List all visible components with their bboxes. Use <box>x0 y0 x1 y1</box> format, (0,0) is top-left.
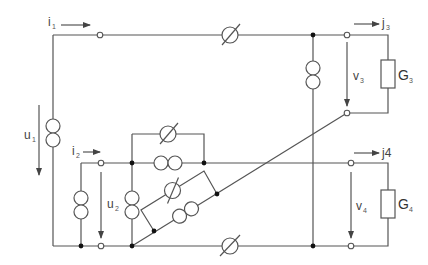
svg-text:G: G <box>398 196 409 212</box>
svg-text:1: 1 <box>32 136 36 143</box>
svg-text:2: 2 <box>76 152 80 159</box>
svg-text:i: i <box>72 144 75 158</box>
label-v4: v 4 <box>356 199 367 214</box>
label-i2: i 2 <box>72 144 80 159</box>
svg-text:G: G <box>398 67 409 83</box>
label-i1: i 1 <box>48 15 56 30</box>
conductance-G3 <box>381 60 395 88</box>
svg-text:3: 3 <box>360 77 364 84</box>
label-j4: j4 <box>381 146 392 160</box>
current-source-icon-inner-left <box>74 191 88 219</box>
svg-text:j: j <box>381 16 385 30</box>
svg-text:1: 1 <box>52 23 56 30</box>
conductance-G4 <box>381 190 395 218</box>
label-v3: v 3 <box>353 69 364 84</box>
junction-nodes <box>79 33 316 249</box>
svg-text:3: 3 <box>386 24 390 31</box>
variable-meter-icon-top <box>222 24 240 45</box>
svg-text:2: 2 <box>115 205 119 212</box>
circuit-diagram: i 1 j 3 i 2 j4 u 1 u 2 v 3 v 4 G 3 G 4 <box>0 0 428 265</box>
current-source-icon-center-horizontal <box>154 156 182 170</box>
svg-text:4: 4 <box>409 206 413 213</box>
wires <box>53 35 388 246</box>
label-G3: G 3 <box>398 67 413 84</box>
label-G4: G 4 <box>398 196 413 213</box>
svg-text:j4: j4 <box>381 146 392 160</box>
label-u1: u 1 <box>24 128 36 143</box>
variable-meter-icon-bridge <box>160 123 178 144</box>
current-source-icon-center-vertical <box>125 191 139 219</box>
svg-text:i: i <box>48 15 51 29</box>
current-source-icon-right-vertical <box>306 61 320 89</box>
svg-text:v: v <box>356 199 362 213</box>
arrows <box>39 24 379 238</box>
svg-text:4: 4 <box>363 207 367 214</box>
svg-text:u: u <box>107 197 114 211</box>
current-source-icon-diagonal <box>170 199 201 226</box>
variable-meter-icon-bottom <box>220 235 240 256</box>
label-u2: u 2 <box>107 197 119 212</box>
label-j3: j 3 <box>381 16 390 31</box>
variable-meter-icon-diagonal <box>165 178 181 204</box>
svg-text:v: v <box>353 69 359 83</box>
svg-text:u: u <box>24 128 31 142</box>
current-source-icon-left <box>46 119 60 147</box>
svg-text:3: 3 <box>409 77 413 84</box>
